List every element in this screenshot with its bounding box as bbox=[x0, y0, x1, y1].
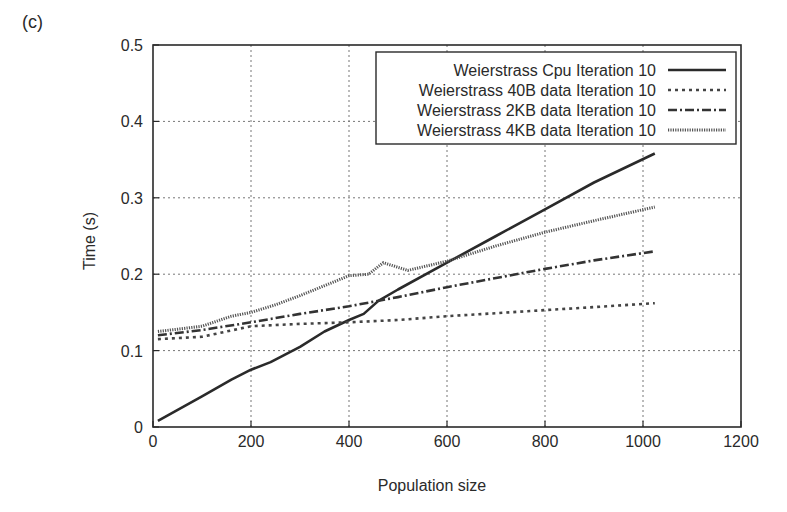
x-tick-label: 1200 bbox=[723, 433, 759, 450]
y-tick-label: 0.2 bbox=[121, 266, 143, 283]
x-tick-label: 800 bbox=[532, 433, 559, 450]
y-tick-label: 0 bbox=[134, 419, 143, 436]
series-lines bbox=[158, 154, 655, 421]
series-line bbox=[158, 154, 655, 421]
x-tick-label: 400 bbox=[336, 433, 363, 450]
x-axis-label: Population size bbox=[378, 477, 487, 494]
y-tick-label: 0.3 bbox=[121, 190, 143, 207]
legend-label: Weierstrass 2KB data Iteration 10 bbox=[417, 102, 656, 119]
series-line bbox=[158, 207, 655, 332]
line-chart: 02004006008001000120000.10.20.30.40.5 Po… bbox=[0, 0, 787, 512]
y-axis-label: Time (s) bbox=[81, 212, 98, 270]
legend-label: Weierstrass Cpu Iteration 10 bbox=[454, 62, 657, 79]
legend-label: Weierstrass 40B data Iteration 10 bbox=[419, 82, 656, 99]
series-line bbox=[158, 303, 655, 339]
y-tick-label: 0.4 bbox=[121, 113, 143, 130]
x-tick-label: 600 bbox=[434, 433, 461, 450]
y-tick-label: 0.1 bbox=[121, 343, 143, 360]
legend: Weierstrass Cpu Iteration 10Weierstrass … bbox=[376, 52, 736, 144]
legend-label: Weierstrass 4KB data Iteration 10 bbox=[417, 122, 656, 139]
series-line bbox=[158, 251, 655, 335]
x-tick-label: 0 bbox=[149, 433, 158, 450]
y-tick-label: 0.5 bbox=[121, 37, 143, 54]
x-tick-label: 200 bbox=[238, 433, 265, 450]
x-tick-label: 1000 bbox=[625, 433, 661, 450]
